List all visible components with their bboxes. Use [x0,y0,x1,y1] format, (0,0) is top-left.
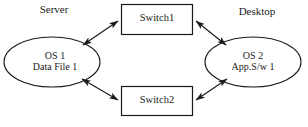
node-switch2-shape [122,87,193,116]
connector-switch2-desktop-host [196,79,227,100]
node-server-host-shape [4,37,100,87]
connector-server-host-switch2 [82,79,118,100]
node-desktop-host-shape [205,37,301,87]
node-switch1-shape [122,5,193,35]
diagram-canvas [0,0,308,127]
caption-server: Server [22,3,86,15]
network-diagram: Server Desktop OS 1 Data File 1 Switch1 … [0,0,308,127]
connector-server-host-switch1 [83,21,118,45]
caption-desktop: Desktop [222,5,292,17]
connector-switch1-desktop-host [196,21,226,45]
